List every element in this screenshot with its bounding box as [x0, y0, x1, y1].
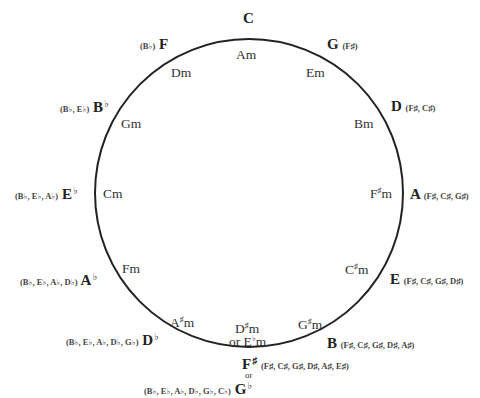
key-a-sharp-minor: A♯m	[170, 316, 194, 330]
circle-of-fifths-diagram: C Am G (F♯) Em D (F♯, C♯) Bm A (F♯, C♯, …	[0, 0, 480, 398]
key-d-accidentals: (F♯, C♯)	[406, 103, 436, 113]
key-f-minor: Fm	[122, 262, 140, 276]
key-f-sharp-major: F♯ (F♯, C♯, G♯, D♯, A♯, E♯)	[242, 356, 349, 372]
key-e-minor: Em	[306, 66, 325, 80]
enharmonic-or-label: or	[245, 371, 253, 380]
key-f-major: (B♭) F	[140, 37, 168, 52]
key-e-flat-accidentals: (B♭, E♭, A♭)	[15, 191, 58, 201]
key-e-accidentals: (F♯, C♯, G♯, D♯)	[404, 276, 464, 286]
key-b-accidentals: (F♯, C♯, G♯, D♯, A♯)	[341, 340, 415, 350]
key-a-major: A (F♯, C♯, G♯)	[410, 187, 469, 202]
key-g-sharp-minor: G♯m	[298, 318, 322, 332]
key-a-accidentals: (F♯, C♯, G♯)	[424, 191, 469, 201]
key-a-minor: Am	[236, 48, 256, 62]
key-f-sharp-accidentals: (F♯, C♯, G♯, D♯, A♯, E♯)	[261, 361, 349, 371]
key-g-major: G (F♯)	[327, 37, 358, 52]
key-d-minor: Dm	[171, 66, 191, 80]
key-b-major: B (F♯, C♯, G♯, D♯, A♯)	[327, 336, 414, 351]
key-c-major: C	[243, 11, 254, 26]
key-b-flat-accidentals: (B♭, E♭)	[60, 104, 89, 114]
key-d-flat-major: (B♭, E♭, A♭, D♭, G♭) D♭	[66, 332, 159, 348]
key-d-flat-accidentals: (B♭, E♭, A♭, D♭, G♭)	[66, 337, 138, 347]
key-d-major: D (F♯, C♯)	[391, 99, 435, 114]
key-g-accidentals: (F♯)	[342, 41, 357, 51]
key-e-major: E (F♯, C♯, G♯, D♯)	[390, 272, 463, 287]
key-g-flat-accidentals: (B♭, E♭, A♭, D♭, G♭, C♭)	[144, 386, 231, 396]
key-b-minor: Bm	[354, 117, 374, 131]
key-f-sharp-minor: F♯m	[370, 187, 392, 201]
key-c-sharp-minor: C♯m	[345, 263, 369, 277]
key-e-flat-minor: or E♭m	[229, 335, 266, 349]
key-a-flat-accidentals: (B♭, E♭, A♭, D♭)	[20, 277, 78, 287]
key-b-flat-major: (B♭, E♭) B♭	[60, 99, 109, 115]
key-c-minor: Cm	[103, 187, 123, 201]
key-g-flat-major: (B♭, E♭, A♭, D♭, G♭, C♭) G♭	[144, 381, 252, 397]
key-f-accidentals: (B♭)	[140, 41, 155, 51]
key-g-minor: Gm	[121, 117, 141, 131]
key-a-flat-major: (B♭, E♭, A♭, D♭) A♭	[20, 272, 97, 288]
key-e-flat-major: (B♭, E♭, A♭) E♭	[15, 186, 78, 202]
